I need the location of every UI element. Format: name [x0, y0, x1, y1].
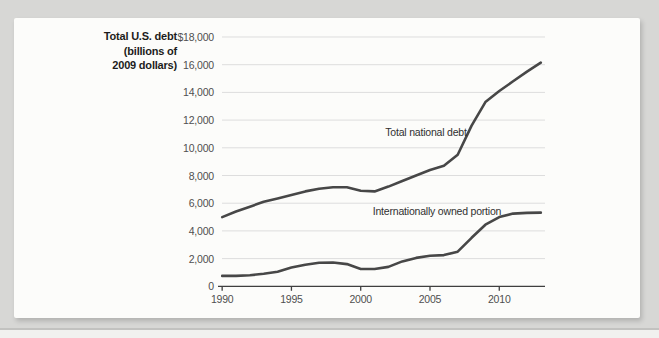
y-tick-label: 8,000: [189, 170, 215, 182]
series-line-total-national-debt: [222, 63, 541, 218]
y-tick-label: 16,000: [183, 59, 214, 71]
debt-line-chart: $18,00016,00014,00012,00010,0008,0006,00…: [14, 18, 640, 318]
y-tick-label: 14,000: [183, 86, 214, 98]
y-tick-label: 10,000: [183, 142, 214, 154]
y-tick-label: $18,000: [177, 31, 214, 43]
series-label-total-national-debt: Total national debt: [351, 126, 501, 138]
y-tick-label: 4,000: [189, 225, 215, 237]
x-tick-label: 2010: [488, 293, 511, 305]
y-tick-label: 6,000: [189, 197, 215, 209]
y-tick-label: 0: [208, 280, 214, 292]
chart-card: Total U.S. debt (billions of 2009 dollar…: [14, 18, 640, 318]
x-tick-label: 1995: [280, 293, 303, 305]
series-label-internationally-owned-portion: Internationally owned portion: [362, 205, 512, 217]
x-tick-label: 2005: [419, 293, 442, 305]
y-tick-label: 2,000: [189, 253, 215, 265]
x-tick-label: 2000: [349, 293, 372, 305]
series-line-internationally-owned-portion: [222, 213, 541, 276]
y-tick-label: 12,000: [183, 114, 214, 126]
page-bottom-divider: [0, 328, 659, 338]
x-tick-label: 1990: [211, 293, 234, 305]
